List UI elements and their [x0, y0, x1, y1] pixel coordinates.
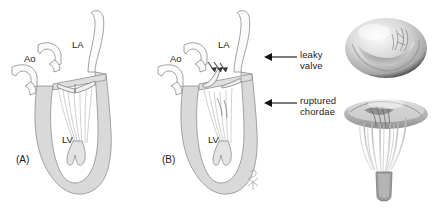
ruptured-chordae-leader — [264, 99, 297, 107]
ruptured-chordae-label-line2: chordae — [300, 107, 336, 118]
mitral-valve-figure: Ao LA LV (A) — [0, 0, 432, 212]
panel-b-drawing: Ao LA LV (B) — [144, 0, 274, 212]
photographs-drawing — [340, 0, 432, 212]
panel-a-drawing: Ao LA LV (A) — [0, 0, 150, 212]
ruptured-chordae-label-line1: ruptured — [300, 96, 336, 107]
panel-b-label-ao: Ao — [170, 53, 182, 64]
panel-a-label-lv: LV — [62, 134, 74, 145]
la-outflow-vessel — [88, 11, 104, 72]
panel-a-label-ao: Ao — [24, 53, 36, 64]
panel-b-label-la: LA — [218, 39, 230, 50]
leaky-valve-callout-label: leaky valve — [300, 50, 323, 71]
valve-photographs — [340, 0, 432, 212]
panel-b-leaky-valve-heart: Ao LA LV (B) — [144, 0, 274, 212]
panel-b-label-lv: LV — [208, 134, 220, 145]
panel-a-normal-heart: Ao LA LV (A) — [0, 0, 150, 212]
photo-valve-superior-view — [345, 18, 427, 78]
photo-valve-chordae-papillary-view — [344, 99, 428, 201]
la-outflow-vessel-b — [234, 11, 250, 72]
ruptured-chordae-callout-label: ruptured chordae — [300, 96, 336, 117]
leaky-valve-label-line1: leaky — [300, 50, 323, 61]
panel-b-id: (B) — [162, 154, 175, 165]
leaky-valve-leader — [264, 53, 297, 61]
panel-a-label-la: LA — [72, 39, 84, 50]
panel-a-id: (A) — [16, 154, 29, 165]
leaky-valve-label-line2: valve — [300, 61, 323, 72]
ventricle-wall-b — [181, 72, 257, 194]
